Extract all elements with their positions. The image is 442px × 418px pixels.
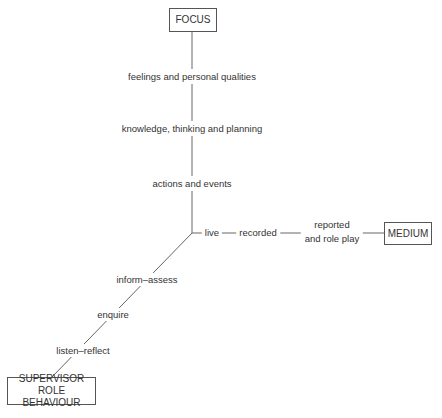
focus-title: FOCUS xyxy=(176,14,211,26)
medium-level-reported-line1: reported xyxy=(305,219,359,230)
medium-title: MEDIUM xyxy=(388,228,429,240)
medium-level-live: live xyxy=(202,227,222,238)
role-level-inform-assess: inform–assess xyxy=(114,273,179,286)
focus-level-knowledge: knowledge, thinking and planning xyxy=(122,121,263,136)
focus-level-actions: actions and events xyxy=(152,176,231,191)
medium-level-reported: reported and role play xyxy=(301,219,363,244)
focus-box: FOCUS xyxy=(169,8,217,32)
medium-box: MEDIUM xyxy=(384,222,432,245)
role-level-enquire: enquire xyxy=(95,308,131,321)
medium-level-reported-line2: and role play xyxy=(305,233,359,244)
supervisor-title-line2: ROLE BEHAVIOUR xyxy=(8,385,95,409)
supervisor-role-box: SUPERVISOR ROLE BEHAVIOUR xyxy=(7,377,96,405)
medium-level-recorded: recorded xyxy=(236,227,280,238)
role-level-listen-reflect: listen–reflect xyxy=(54,344,111,357)
supervisor-title-line1: SUPERVISOR xyxy=(19,373,84,385)
focus-level-feelings: feelings and personal qualities xyxy=(128,69,256,84)
